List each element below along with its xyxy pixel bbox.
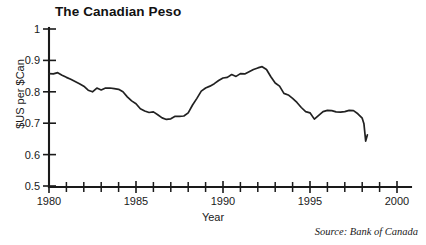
x-tick-label: 1995 [298, 195, 322, 207]
x-tick-label: 1980 [37, 195, 61, 207]
y-tick-label: 0.9 [25, 54, 40, 66]
y-tick-label: 0.8 [25, 86, 40, 98]
x-tick-label: 2000 [385, 195, 409, 207]
x-tick-label: 1990 [211, 195, 235, 207]
x-tick-label: 1985 [124, 195, 148, 207]
chart-figure: The Canadian Peso $US per $Can Year Sour… [0, 0, 426, 245]
y-tick-label: 1 [34, 23, 40, 35]
x-axis-tick-labels: 19801985199019952000 [37, 195, 409, 207]
y-tick-label: 0.7 [25, 117, 40, 129]
line-chart-plot: 0.50.60.70.80.91 19801985199019952000 [0, 0, 426, 245]
exchange-rate-line [49, 67, 367, 141]
y-tick-label: 0.5 [25, 180, 40, 192]
y-axis-tick-labels: 0.50.60.70.80.91 [25, 23, 40, 192]
y-tick-label: 0.6 [25, 149, 40, 161]
